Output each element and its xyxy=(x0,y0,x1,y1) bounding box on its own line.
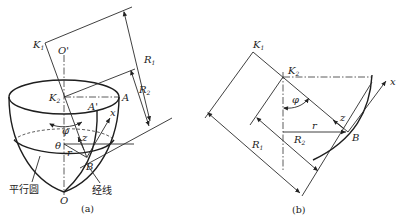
label-O: O xyxy=(60,195,68,206)
label-K2: K2 xyxy=(287,65,299,77)
label-K2: K2 xyxy=(48,92,60,104)
label-R2: R2 xyxy=(293,134,306,146)
label-x: x xyxy=(390,76,396,87)
line-K1-B xyxy=(253,52,348,132)
label-B: B xyxy=(85,161,93,172)
label-x: x xyxy=(110,107,116,118)
label-R2: R2 xyxy=(138,84,151,96)
label-parallel-circle: 平行圆 xyxy=(9,183,39,195)
tangent-line xyxy=(302,82,372,196)
caption-a: (a) xyxy=(81,203,94,214)
shell-geometry-figure: K1 O' K2 A A' R1 R2 x z φ θ r B O 平行圆 经线… xyxy=(0,0,399,224)
figure-b: K1 K2 φ x z r B R1 R2 (b) xyxy=(205,39,396,215)
label-phi: φ xyxy=(292,94,299,105)
label-z: z xyxy=(81,132,88,143)
figure-a: K1 O' K2 A A' R1 R2 x z φ θ r B O 平行圆 经线… xyxy=(9,7,172,214)
label-O-prime: O' xyxy=(58,45,69,56)
label-K1: K1 xyxy=(32,39,44,51)
line-K1-left xyxy=(205,52,253,118)
label-phi: φ xyxy=(62,125,69,136)
x-axis-arrow xyxy=(348,81,386,132)
caption-b: (b) xyxy=(292,204,306,215)
R1-dimension xyxy=(124,12,150,121)
label-R1: R1 xyxy=(143,54,155,66)
R1-dimension xyxy=(208,113,300,193)
label-A-prime: A' xyxy=(87,101,98,112)
line-K2-left xyxy=(250,77,283,125)
label-A: A xyxy=(121,92,129,103)
line-K1-top xyxy=(45,7,132,43)
label-z: z xyxy=(339,112,346,123)
label-theta: θ xyxy=(55,140,61,151)
label-B: B xyxy=(351,132,359,143)
label-r: r xyxy=(312,120,318,131)
label-K1: K1 xyxy=(252,39,264,51)
label-meridian: 经线 xyxy=(92,184,112,196)
label-R1: R1 xyxy=(251,139,263,151)
